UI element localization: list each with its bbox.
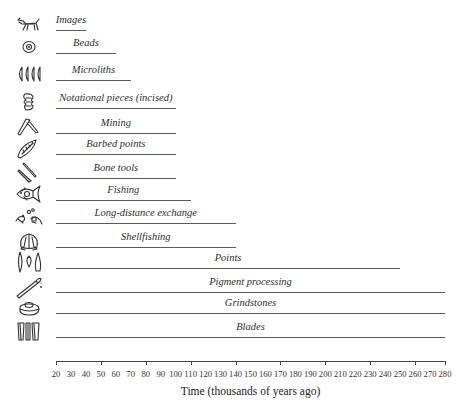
bar-label: Mining (101, 117, 131, 129)
timeline-bar (56, 80, 131, 81)
fish-icon (14, 182, 44, 206)
animal-painting-icon (14, 12, 44, 36)
x-tick-label: 60 (112, 369, 121, 379)
x-tick-label: 220 (349, 369, 362, 379)
x-tick-label: 150 (244, 369, 257, 379)
x-tick-label: 100 (169, 369, 182, 379)
bead-icon (14, 35, 44, 59)
x-tick-label: 80 (141, 369, 150, 379)
x-tick (146, 361, 147, 365)
timeline-bar (56, 178, 176, 179)
x-tick-label: 30 (67, 369, 76, 379)
grindstone-icon (14, 295, 44, 319)
x-tick-label: 270 (424, 369, 437, 379)
timeline-bar (56, 313, 445, 314)
x-tick-label: 240 (379, 369, 392, 379)
timeline-bar (56, 292, 445, 293)
x-tick (445, 361, 446, 365)
x-tick-label: 70 (127, 369, 136, 379)
bar-label: Shellfishing (121, 231, 171, 243)
x-tick (101, 361, 102, 365)
x-tick-label: 110 (184, 369, 197, 379)
x-tick-label: 50 (97, 369, 106, 379)
x-tick-label: 260 (409, 369, 422, 379)
x-tick (415, 361, 416, 365)
x-tick-label: 90 (156, 369, 165, 379)
timeline-bar (56, 223, 236, 224)
x-tick (325, 361, 326, 365)
x-tick-label: 40 (82, 369, 91, 379)
timeline-bar (56, 268, 400, 269)
x-tick-label: 160 (259, 369, 272, 379)
x-tick-label: 120 (199, 369, 212, 379)
x-tick (280, 361, 281, 365)
bar-label: Blades (236, 321, 265, 333)
x-tick (236, 361, 237, 365)
bar-label: Bone tools (94, 162, 139, 174)
timeline-bar (56, 133, 176, 134)
x-tick-label: 180 (289, 369, 302, 379)
chart: ImagesBeadsMicrolithsNotational pieces (… (0, 0, 465, 410)
bar-label: Grindstones (225, 297, 276, 309)
bar-label: Barbed points (86, 138, 145, 150)
x-tick-label: 230 (364, 369, 377, 379)
bar-label: Notational pieces (incised) (59, 92, 172, 104)
timeline-bar (56, 108, 176, 109)
bar-label: Long-distance exchange (95, 207, 197, 219)
timeline-bar (56, 154, 176, 155)
bar-label: Points (215, 252, 242, 264)
bar-label: Fishing (107, 184, 139, 196)
points-icon (14, 250, 44, 274)
timeline-bar (56, 337, 445, 338)
timeline-bar (56, 247, 236, 248)
timeline-bar (56, 200, 191, 201)
timeline-bar (56, 30, 86, 31)
x-tick-label: 200 (319, 369, 332, 379)
x-axis-line (56, 361, 445, 362)
x-tick-label: 130 (214, 369, 227, 379)
x-axis-title: Time (thousands of years ago) (181, 385, 320, 397)
x-tick-label: 280 (439, 369, 452, 379)
timeline-bar (56, 53, 116, 54)
exchange-icon (14, 205, 44, 229)
x-tick-label: 250 (394, 369, 407, 379)
x-tick (370, 361, 371, 365)
x-tick-label: 140 (229, 369, 242, 379)
x-tick (56, 361, 57, 365)
blades-icon (14, 319, 44, 343)
microliths-icon (14, 62, 44, 86)
bar-label: Pigment processing (209, 276, 292, 288)
x-tick-label: 170 (274, 369, 287, 379)
x-tick-label: 210 (334, 369, 347, 379)
x-tick-label: 190 (304, 369, 317, 379)
x-tick-label: 20 (52, 369, 61, 379)
bone-tools-icon (14, 160, 44, 184)
bar-label: Images (56, 14, 86, 26)
bar-label: Beads (73, 37, 99, 49)
x-tick (191, 361, 192, 365)
incised-piece-icon (14, 90, 44, 114)
bar-label: Microliths (72, 64, 115, 76)
barbed-point-icon (14, 136, 44, 160)
